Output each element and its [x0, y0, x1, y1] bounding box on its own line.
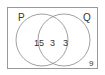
- region-p-only: 15: [34, 38, 44, 48]
- region-q-only: 3: [63, 38, 68, 48]
- set-q-label: Q: [83, 12, 91, 23]
- venn-diagram: P Q 15 3 3 9: [0, 0, 105, 75]
- region-outside: 9: [89, 59, 94, 68]
- set-p-label: P: [18, 12, 25, 23]
- region-p-and-q: 3: [50, 38, 55, 48]
